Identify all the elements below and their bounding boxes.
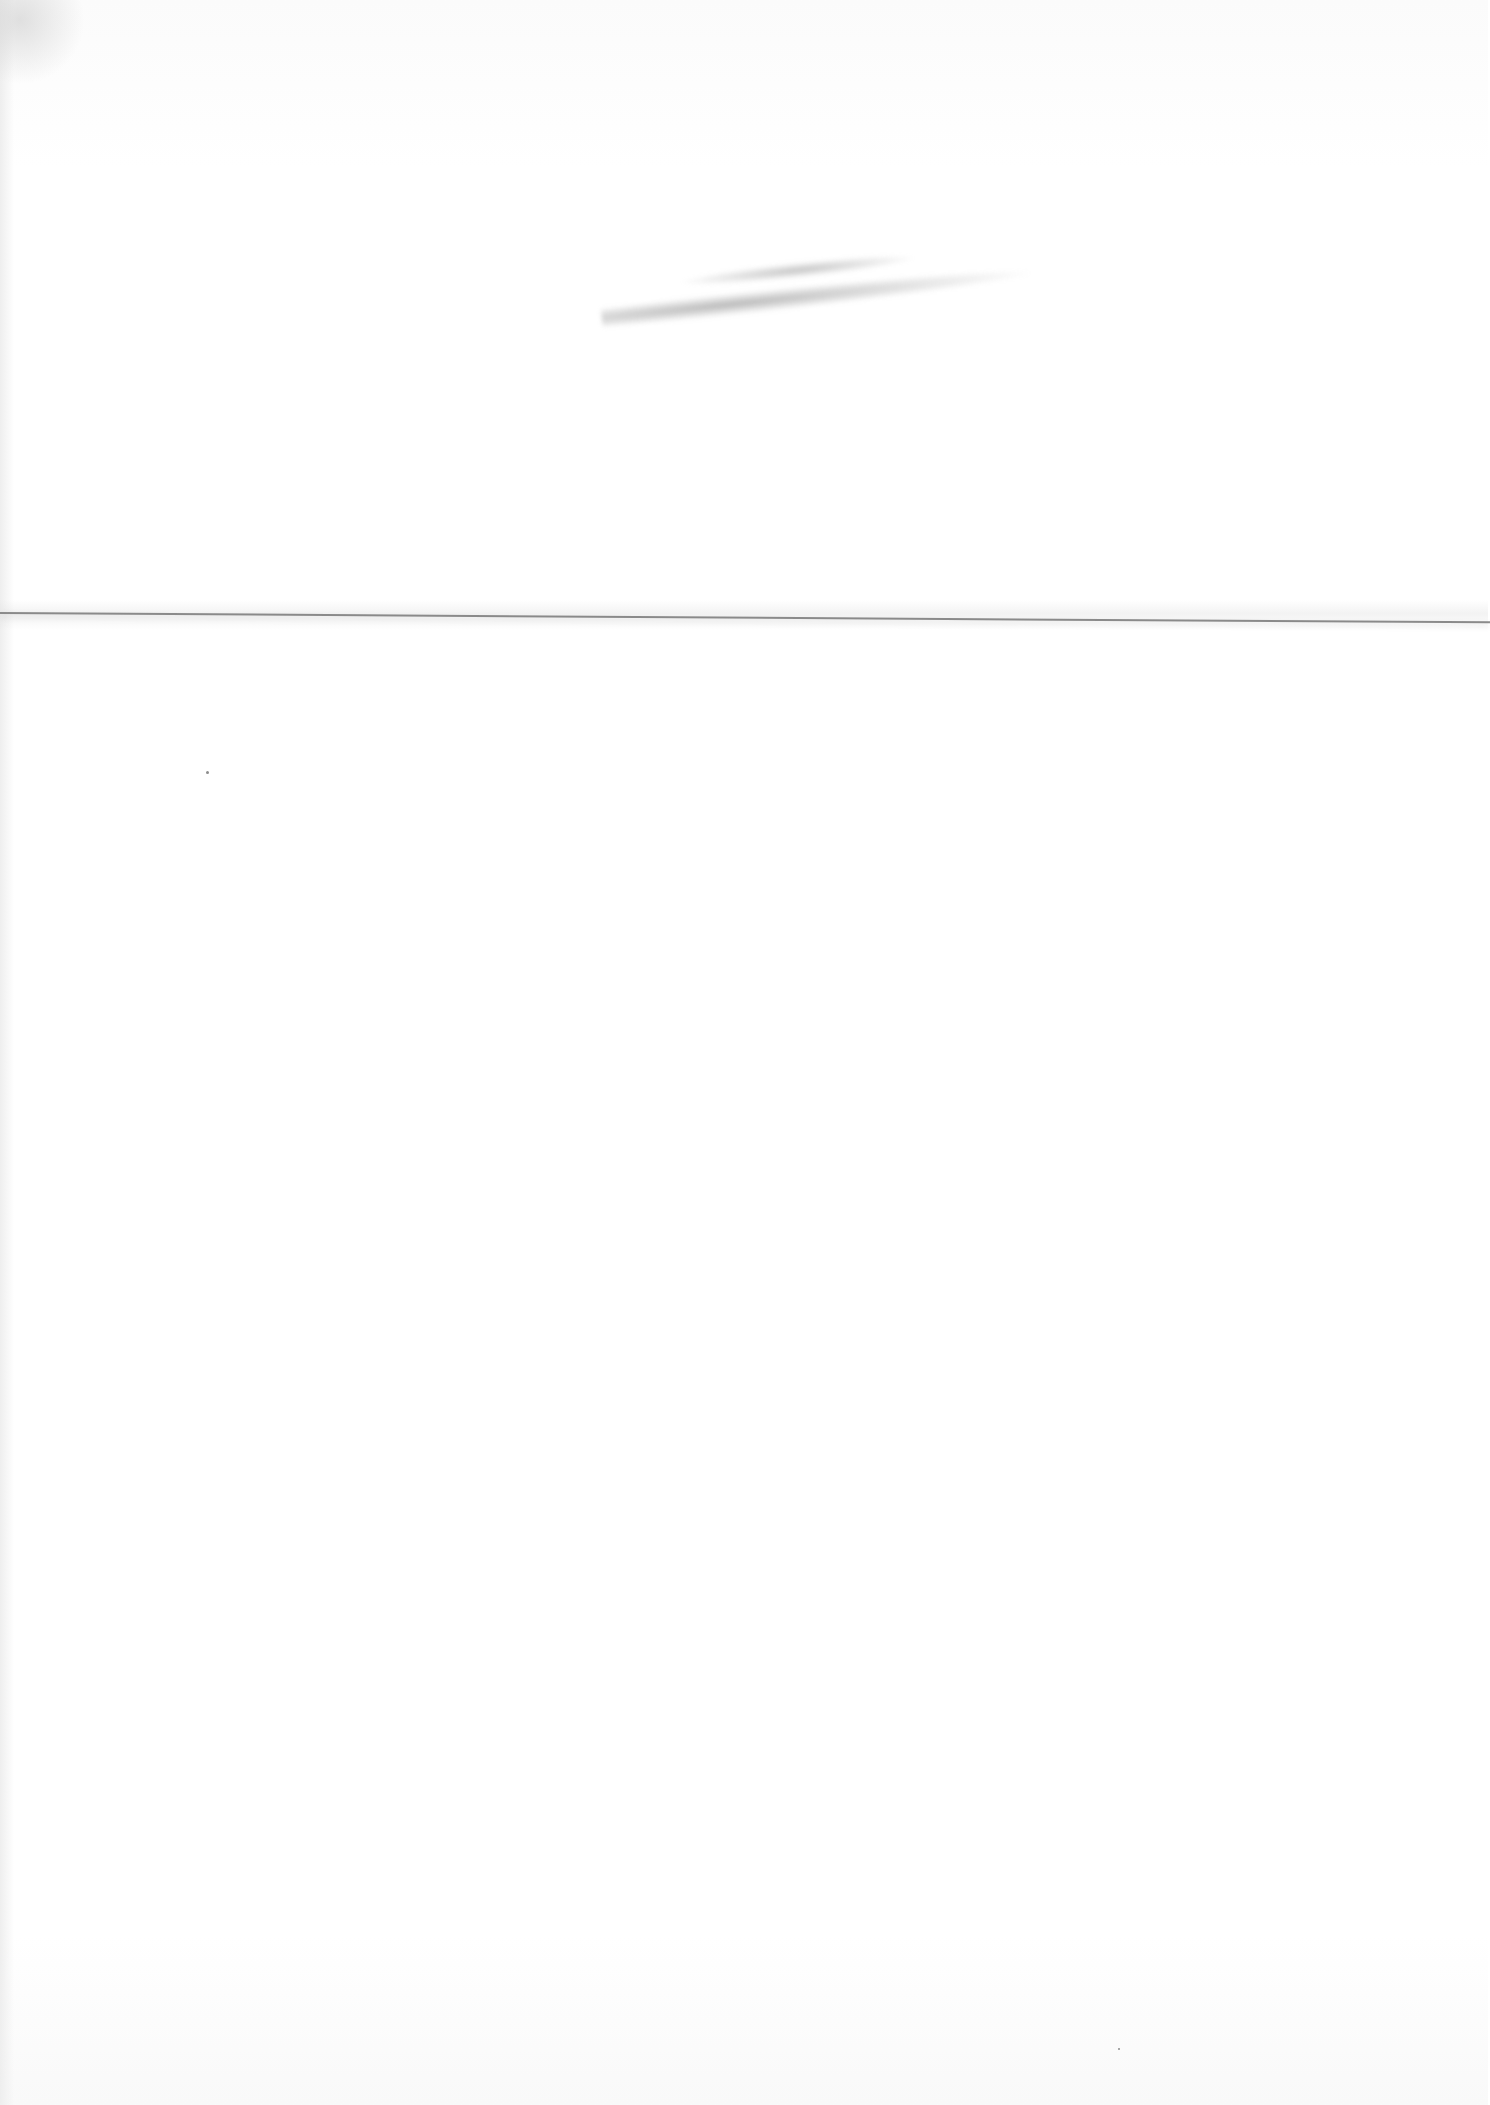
page-edge-shadow [0, 0, 14, 2105]
dust-speck [1118, 2048, 1120, 2050]
corner-smudge [0, 0, 90, 90]
pencil-smudge [597, 227, 1043, 353]
dust-speck [206, 771, 209, 774]
